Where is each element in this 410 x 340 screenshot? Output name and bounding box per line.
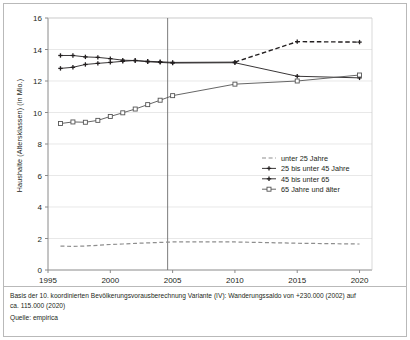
- source-line: Quelle: empirica: [10, 313, 400, 323]
- data-marker-plus: [83, 62, 87, 66]
- legend-item: 65 Jahre und älter: [262, 185, 340, 194]
- data-marker-square: [295, 79, 299, 83]
- data-marker-plus: [295, 39, 299, 43]
- x-axis-tick-label: 2020: [351, 276, 369, 285]
- y-axis-tick-label: 6: [38, 172, 43, 181]
- y-axis-tick-label: 2: [38, 235, 43, 244]
- y-axis-tick-label: 12: [33, 77, 42, 86]
- data-marker-plus: [58, 66, 62, 70]
- line-chart: 0246810121416199520002005201020152020unt…: [0, 0, 410, 286]
- y-axis-tick-label: 4: [38, 203, 43, 212]
- x-axis-tick-label: 2000: [101, 276, 119, 285]
- y-axis-tick-label: 0: [38, 266, 43, 275]
- data-marker-square: [358, 73, 362, 77]
- data-marker-square: [133, 107, 137, 111]
- legend-label: 65 Jahre und älter: [281, 185, 340, 194]
- data-marker-plus: [133, 58, 137, 62]
- data-marker-square: [158, 98, 162, 102]
- data-marker-plus: [145, 59, 149, 63]
- data-marker-plus: [158, 60, 162, 64]
- data-marker-square: [267, 187, 271, 191]
- data-marker-plus: [267, 166, 271, 170]
- y-axis-tick-label: 10: [33, 109, 42, 118]
- legend-item: unter 25 Jahre: [262, 154, 328, 163]
- legend-label: 45 bis unter 65: [281, 175, 329, 184]
- data-marker-plus: [96, 61, 100, 65]
- data-marker-plus: [71, 65, 75, 69]
- data-marker-plus: [71, 53, 75, 57]
- plot-area-wrapper: Haushalte (Altersklassen) (in Mio.) 0246…: [0, 0, 410, 286]
- series-3: [58, 39, 361, 64]
- legend-label: 25 bis unter 45 Jahre: [281, 164, 350, 173]
- data-marker-square: [83, 120, 87, 124]
- data-marker-plus: [267, 177, 271, 181]
- x-axis-tick-label: 1995: [39, 276, 57, 285]
- data-marker-plus: [357, 40, 361, 44]
- data-marker-square: [121, 111, 125, 115]
- data-marker-square: [71, 120, 75, 124]
- footnote-line-2: ca. 115.000 (2020): [10, 301, 400, 311]
- data-marker-plus: [96, 55, 100, 59]
- series-line: [60, 75, 359, 124]
- data-marker-plus: [295, 74, 299, 78]
- y-axis-tick-label: 8: [38, 140, 43, 149]
- legend-label: unter 25 Jahre: [281, 154, 328, 163]
- y-axis-tick-label: 14: [33, 46, 42, 55]
- data-marker-square: [58, 122, 62, 126]
- data-marker-square: [146, 103, 150, 107]
- data-marker-square: [171, 94, 175, 98]
- data-marker-square: [96, 118, 100, 122]
- data-marker-plus: [58, 53, 62, 57]
- data-marker-plus: [170, 60, 174, 64]
- series-2: [58, 58, 361, 80]
- x-axis-tick-label: 2005: [164, 276, 182, 285]
- series-line-projection: [235, 42, 360, 62]
- x-axis-tick-label: 2010: [226, 276, 244, 285]
- legend-item: 45 bis unter 65: [262, 175, 329, 184]
- footnote-block: Basis der 10. koordinierten Bevölkerungs…: [3, 286, 407, 323]
- series-line: [60, 61, 359, 78]
- data-marker-plus: [108, 56, 112, 60]
- data-marker-plus: [108, 60, 112, 64]
- data-marker-plus: [233, 60, 237, 64]
- x-axis-tick-label: 2015: [288, 276, 306, 285]
- footnote-line-1: Basis der 10. koordinierten Bevölkerungs…: [10, 291, 400, 301]
- series-line: [60, 242, 359, 246]
- chart-figure: Haushalte (Altersklassen) (in Mio.) 0246…: [0, 0, 410, 340]
- legend-item: 25 bis unter 45 Jahre: [262, 164, 350, 173]
- y-axis-tick-label: 16: [33, 14, 42, 23]
- data-marker-square: [233, 82, 237, 86]
- data-marker-square: [108, 114, 112, 118]
- series-1: [60, 242, 359, 246]
- data-marker-plus: [83, 55, 87, 59]
